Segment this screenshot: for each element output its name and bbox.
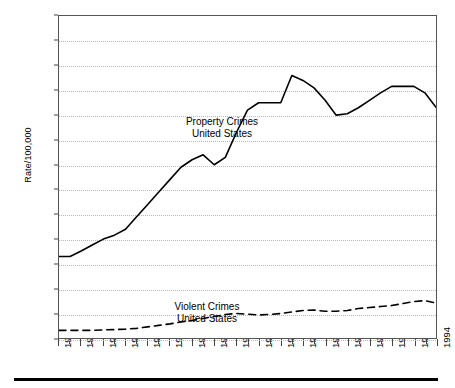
plot-area: Property Crimes United States Violent Cr… [58, 15, 437, 339]
x-tick-label: 1994 [441, 327, 452, 348]
x-tick-mark [437, 339, 438, 346]
y-axis-label: Rate/100,000 [23, 95, 33, 215]
annotation-violent-crimes: Violent Crimes United States [144, 301, 270, 325]
series-line-property-crimes [59, 76, 436, 257]
crime-rate-line-chart: Rate/100,000 050010001500200025003000350… [0, 0, 455, 388]
bottom-rule [14, 378, 438, 381]
series-layer [59, 16, 436, 338]
annotation-property-crimes: Property Crimes United States [159, 116, 285, 140]
gridline [59, 340, 436, 341]
